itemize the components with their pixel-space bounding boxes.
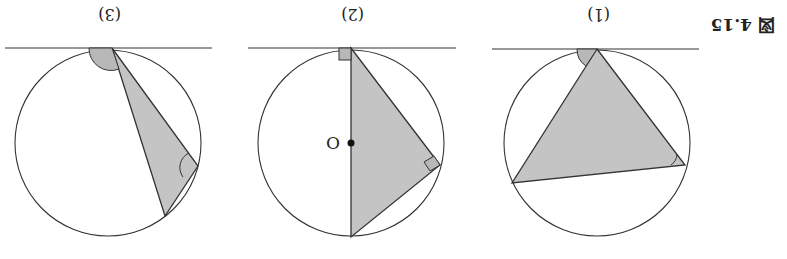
figure-4-15: 図 4.15 (1) O (2) bbox=[0, 0, 787, 259]
panel-1: (1) bbox=[492, 5, 699, 236]
right-angle-marker-tangent bbox=[339, 48, 351, 60]
center-label: O bbox=[326, 133, 340, 153]
caption-text: 図 4.15 bbox=[711, 15, 775, 35]
panel-label: (1) bbox=[587, 5, 610, 24]
caption: 図 4.15 bbox=[711, 15, 775, 35]
panel-2: O (2) bbox=[248, 5, 456, 237]
shaded-triangle bbox=[112, 48, 198, 216]
shaded-right-triangle bbox=[351, 48, 440, 237]
shaded-triangle bbox=[512, 49, 685, 183]
panel-label: (3) bbox=[98, 5, 121, 24]
center-point bbox=[348, 140, 355, 147]
panel-label: (2) bbox=[341, 5, 364, 24]
panel-3: (3) bbox=[5, 5, 212, 236]
